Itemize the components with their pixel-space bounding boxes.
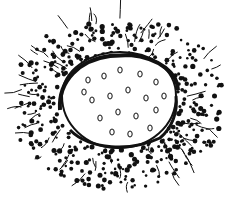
oval-body xyxy=(60,52,178,148)
illustration xyxy=(0,0,234,206)
